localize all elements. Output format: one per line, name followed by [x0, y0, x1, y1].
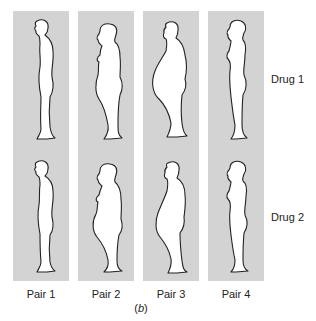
slim-woman-silhouette-icon [208, 159, 264, 277]
obese-man-silhouette-icon [143, 17, 199, 145]
slim-woman-silhouette-icon [208, 17, 264, 145]
row-label-drug-2: Drug 2 [271, 211, 304, 223]
pair-3-label: Pair 3 [141, 288, 201, 300]
pair-4-panel [208, 11, 264, 281]
pair-3-panel [143, 11, 199, 281]
heavy-man-silhouette-icon [143, 159, 199, 277]
slim-man-silhouette-icon [13, 17, 69, 145]
heavier-woman-silhouette-icon [78, 17, 134, 145]
slim-man-silhouette-icon [13, 159, 69, 277]
subfigure-letter: b [138, 302, 144, 314]
pair-2-label: Pair 2 [76, 288, 136, 300]
row-label-drug-1: Drug 1 [271, 73, 304, 85]
pair-4-label: Pair 4 [206, 288, 266, 300]
pair-1-panel [13, 11, 69, 281]
pair-1-label: Pair 1 [11, 288, 71, 300]
pair-2-panel [78, 11, 134, 281]
subfigure-caption: (b) [131, 302, 151, 314]
heavier-woman-silhouette-icon [78, 159, 134, 277]
